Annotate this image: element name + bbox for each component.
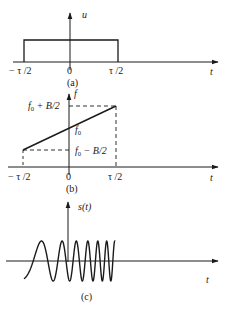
tick-neg-tau-a: − τ /2 [9, 65, 31, 76]
panel-c: s(t) t (c) [6, 201, 218, 303]
panel-a: u t − τ /2 0 τ /2 (a) [9, 9, 218, 89]
caption-b: (b) [66, 183, 78, 195]
t-axis-label-b: t [210, 172, 213, 183]
center-freq-label: f0 [75, 124, 81, 136]
lfm-diagram: u t − τ /2 0 τ /2 (a) f t f0 + B/2 f0 f0… [0, 0, 228, 316]
caption-c: (c) [81, 291, 92, 303]
upper-freq-label: f0 + B/2 [28, 100, 60, 112]
panel-b: f t f0 + B/2 f0 f0 − B/2 − τ /2 0 τ /2 (… [8, 88, 218, 195]
rect-pulse [24, 40, 118, 62]
tick-pos-tau-a: τ /2 [109, 65, 123, 76]
t-axis-label-c: t [206, 274, 209, 285]
u-axis-label: u [82, 9, 87, 20]
tick-zero-b: 0 [66, 171, 71, 182]
tick-zero-a: 0 [67, 65, 72, 76]
f-axis-label: f [74, 88, 78, 99]
s-axis-label: s(t) [78, 201, 92, 213]
tick-neg-tau-b: − τ /2 [8, 171, 30, 182]
t-axis-label-a: t [210, 66, 213, 77]
tick-pos-tau-b: τ /2 [108, 171, 122, 182]
lower-freq-label: f0 − B/2 [75, 145, 107, 157]
